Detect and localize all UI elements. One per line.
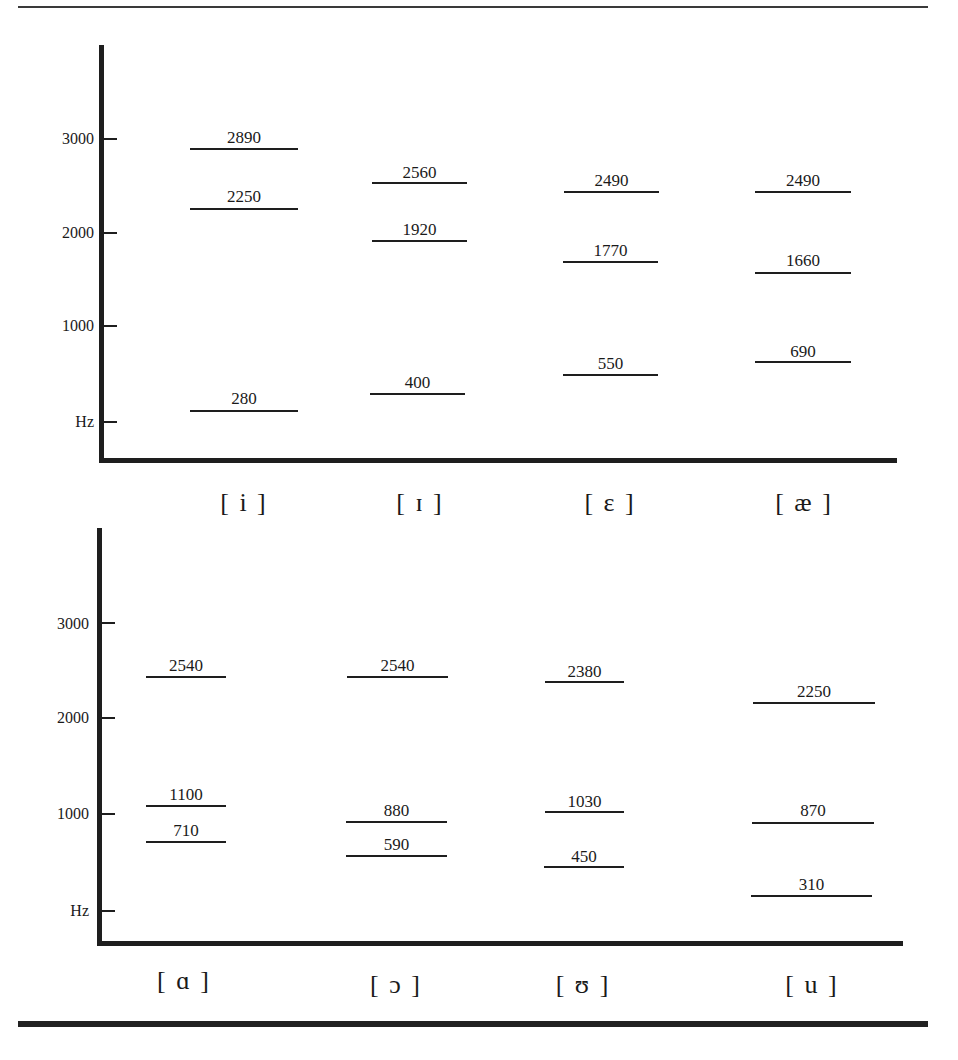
formant-label-eh-f3: 2490 xyxy=(564,172,659,189)
formant-line-ae-f3 xyxy=(755,191,851,193)
y-tick-label-3000: 3000 xyxy=(34,131,94,147)
y-tick-label-3000: 3000 xyxy=(29,616,89,632)
y-tick-hz xyxy=(103,421,117,423)
y-tick-1000 xyxy=(101,813,115,815)
formant-label-i-f3: 2890 xyxy=(190,129,298,146)
formant-line-eh-f1 xyxy=(563,374,658,376)
y-tick-hz xyxy=(101,910,115,912)
y-tick-2000 xyxy=(103,232,117,234)
formant-line-i-f2 xyxy=(190,208,298,210)
formant-line-ao-f3 xyxy=(347,676,448,678)
vowel-label-ae: [ æ ] xyxy=(744,490,864,516)
formant-line-uw-f3 xyxy=(753,702,875,704)
vowel-label-i: [ i ] xyxy=(184,490,304,516)
formant-label-uw-f3: 2250 xyxy=(753,683,875,700)
formant-line-ih-f1 xyxy=(370,393,465,395)
vowel-label-aa: [ ɑ ] xyxy=(124,968,244,994)
vowel-label-uw: [ u ] xyxy=(752,972,872,998)
y-tick-label-2000: 2000 xyxy=(29,710,89,726)
y-tick-label-1000: 1000 xyxy=(34,318,94,334)
formant-line-ao-f1 xyxy=(346,855,447,857)
formant-line-i-f3 xyxy=(190,148,298,150)
formant-label-ao-f3: 2540 xyxy=(347,657,448,674)
formant-line-uw-f1 xyxy=(751,895,872,897)
vowel-label-ao: [ ɔ ] xyxy=(336,972,456,998)
formant-label-ao-f2: 880 xyxy=(346,802,447,819)
formant-label-ao-f1: 590 xyxy=(346,836,447,853)
y-tick-3000 xyxy=(101,622,115,624)
y-axis-unit-hz: Hz xyxy=(29,903,89,919)
formant-line-eh-f2 xyxy=(563,261,658,263)
formant-label-uh-f3: 2380 xyxy=(545,663,624,680)
y-axis xyxy=(99,45,104,463)
y-tick-label-1000: 1000 xyxy=(29,806,89,822)
x-axis xyxy=(97,941,903,946)
formant-line-aa-f2 xyxy=(146,805,226,807)
vowel-label-eh: [ ɛ ] xyxy=(550,490,670,516)
formant-label-i-f2: 2250 xyxy=(190,188,298,205)
y-axis-unit-hz: Hz xyxy=(34,414,94,430)
formant-line-aa-f3 xyxy=(146,676,226,678)
formant-label-ae-f1: 690 xyxy=(755,343,851,360)
vowel-label-uh: [ ʊ ] xyxy=(523,972,643,998)
formant-label-aa-f3: 2540 xyxy=(146,657,226,674)
formant-line-ao-f2 xyxy=(346,821,447,823)
formant-label-aa-f2: 1100 xyxy=(146,786,226,803)
formant-label-ih-f3: 2560 xyxy=(372,164,467,181)
formant-line-uh-f3 xyxy=(545,681,624,683)
y-axis xyxy=(97,528,102,944)
formant-label-uw-f1: 310 xyxy=(751,876,872,893)
formant-line-ae-f1 xyxy=(755,361,851,363)
formant-label-ae-f2: 1660 xyxy=(755,252,851,269)
formant-label-eh-f2: 1770 xyxy=(563,242,658,259)
formant-label-i-f1: 280 xyxy=(190,390,298,407)
formant-line-aa-f1 xyxy=(146,841,226,843)
formant-line-uh-f2 xyxy=(545,811,624,813)
formant-label-aa-f1: 710 xyxy=(146,822,226,839)
formant-line-ih-f2 xyxy=(372,240,467,242)
formant-label-ih-f1: 400 xyxy=(370,374,465,391)
x-axis xyxy=(99,458,897,463)
formant-label-uh-f1: 450 xyxy=(544,848,624,865)
y-tick-3000 xyxy=(103,138,117,140)
y-tick-1000 xyxy=(103,325,117,327)
formant-label-eh-f1: 550 xyxy=(563,355,658,372)
formant-line-eh-f3 xyxy=(564,191,659,193)
formant-label-ae-f3: 2490 xyxy=(755,172,851,189)
formant-line-uw-f2 xyxy=(752,822,874,824)
formant-label-ih-f2: 1920 xyxy=(372,221,467,238)
y-tick-2000 xyxy=(101,717,115,719)
vowel-label-ih: [ ɪ ] xyxy=(360,490,480,516)
formant-line-ae-f2 xyxy=(755,272,851,274)
formant-line-uh-f1 xyxy=(544,866,624,868)
bottom-rule xyxy=(18,1021,928,1027)
y-tick-label-2000: 2000 xyxy=(34,225,94,241)
top-rule xyxy=(18,6,928,8)
formant-label-uw-f2: 870 xyxy=(752,802,874,819)
formant-line-ih-f3 xyxy=(372,182,467,184)
formant-line-i-f1 xyxy=(190,410,298,412)
formant-label-uh-f2: 1030 xyxy=(545,793,624,810)
